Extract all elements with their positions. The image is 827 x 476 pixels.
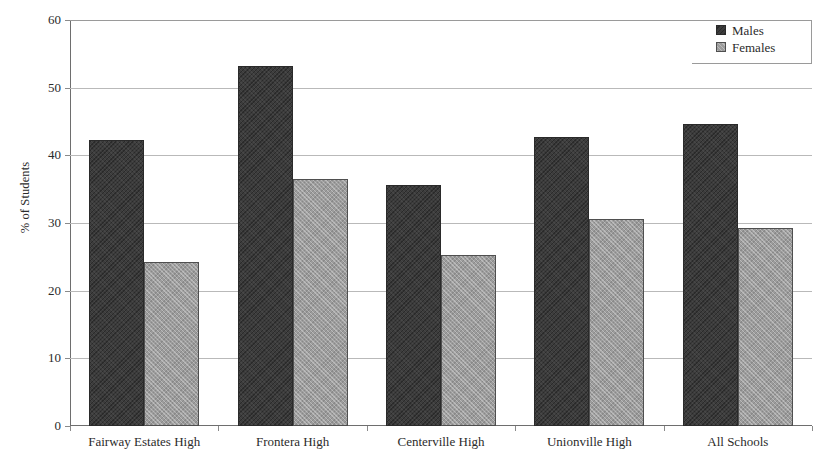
- bar-males-3: [534, 137, 589, 426]
- y-tick-mark-30: [65, 223, 70, 224]
- females-swatch-icon: [716, 42, 726, 52]
- gridline-50: [70, 88, 812, 89]
- y-tick-mark-50: [65, 88, 70, 89]
- legend: MalesFemales: [716, 22, 775, 56]
- bar-males-2: [386, 185, 441, 426]
- y-tick-label-60: 60: [15, 12, 61, 28]
- bar-chart: % of Students 0102030405060 Fairway Esta…: [0, 0, 827, 476]
- bar-females-3: [589, 219, 644, 426]
- x-tick-mark-edge-5: [812, 426, 813, 431]
- y-tick-label-50: 50: [15, 80, 61, 96]
- bar-males-4: [683, 124, 738, 426]
- males-swatch-icon: [716, 25, 726, 35]
- x-tick-label-4: All Schools: [638, 434, 827, 450]
- x-tick-mark-edge-0: [70, 426, 71, 431]
- y-tick-mark-10: [65, 358, 70, 359]
- bar-males-1: [238, 66, 293, 426]
- legend-item-females: Females: [716, 39, 775, 55]
- x-tick-mark-2: [367, 426, 368, 431]
- bar-females-0: [144, 262, 199, 426]
- y-tick-mark-20: [65, 291, 70, 292]
- y-tick-label-10: 10: [15, 350, 61, 366]
- legend-item-males: Males: [716, 22, 775, 38]
- y-tick-mark-40: [65, 155, 70, 156]
- y-tick-label-30: 30: [15, 215, 61, 231]
- x-tick-mark-4: [664, 426, 665, 431]
- x-tick-mark-1: [218, 426, 219, 431]
- bar-females-2: [441, 255, 496, 426]
- bar-females-1: [293, 179, 348, 426]
- legend-label-males: Males: [732, 24, 764, 37]
- y-tick-label-40: 40: [15, 147, 61, 163]
- y-tick-label-0: 0: [15, 418, 61, 434]
- bar-males-0: [89, 140, 144, 426]
- plot-area: [70, 20, 812, 426]
- x-tick-mark-3: [515, 426, 516, 431]
- bar-females-4: [738, 228, 793, 426]
- legend-label-females: Females: [732, 41, 775, 54]
- y-tick-mark-60: [65, 20, 70, 21]
- y-tick-label-20: 20: [15, 283, 61, 299]
